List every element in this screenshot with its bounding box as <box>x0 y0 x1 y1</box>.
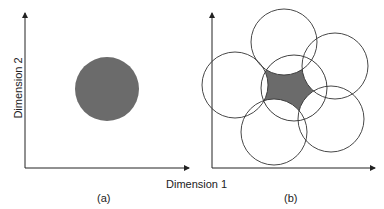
caption-a: (a) <box>97 192 110 204</box>
filled-circle <box>75 57 139 121</box>
panel-a <box>25 13 189 168</box>
y-axis-label: Dimension 2 <box>12 48 24 128</box>
x-axis-label: Dimension 1 <box>166 178 227 190</box>
caption-b: (b) <box>284 192 297 204</box>
panel-b <box>202 9 375 168</box>
circle-lower-right <box>298 86 364 152</box>
